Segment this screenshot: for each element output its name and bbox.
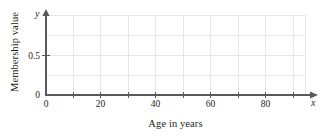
y-tick-label-0: 0 [18, 90, 40, 100]
x-axis-variable-label: x [311, 97, 315, 108]
y-axis-arrowhead [42, 9, 49, 16]
chart-figure: Membership value [0, 0, 329, 140]
y-axis-variable-label: y [35, 8, 39, 19]
x-tick-label-20: 20 [96, 99, 106, 109]
gridlines [46, 15, 306, 95]
x-axis-title: Age in years [46, 118, 305, 129]
x-tick-label-80: 80 [261, 99, 271, 109]
x-tick-label-0: 0 [44, 99, 49, 109]
axes [42, 9, 318, 99]
x-tick-label-60: 60 [206, 99, 216, 109]
y-tick-label-05: 0.5 [14, 51, 40, 61]
x-tick-label-40: 40 [151, 99, 161, 109]
